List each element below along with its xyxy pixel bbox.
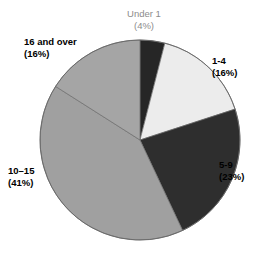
slice-label-16-and-over: 16 and over (16%)	[24, 36, 108, 59]
slice-label-under-1: Under 1 (4%)	[110, 8, 178, 31]
pie-slices	[40, 40, 240, 240]
slice-label-10-15: 10–15 (41%)	[8, 165, 70, 188]
slice-label-10-15-percent: (41%)	[8, 177, 70, 189]
slice-label-1-4-name: 1-4	[212, 55, 226, 66]
slice-label-5-9-name: 5-9	[219, 159, 233, 170]
slice-label-1-4: 1-4 (16%)	[212, 55, 272, 78]
slice-label-16-and-over-name: 16 and over	[24, 36, 77, 47]
slice-label-under-1-percent: (4%)	[110, 20, 178, 32]
slice-label-under-1-name: Under 1	[127, 8, 161, 19]
slice-label-5-9-percent: (23%)	[219, 171, 277, 183]
slice-label-16-and-over-percent: (16%)	[24, 48, 108, 60]
slice-label-5-9: 5-9 (23%)	[219, 159, 277, 182]
slice-label-10-15-name: 10–15	[8, 165, 34, 176]
pie-chart-figure: Under 1 (4%) 1-4 (16%) 5-9 (23%) 10–15 (…	[0, 0, 279, 259]
slice-label-1-4-percent: (16%)	[212, 67, 272, 79]
